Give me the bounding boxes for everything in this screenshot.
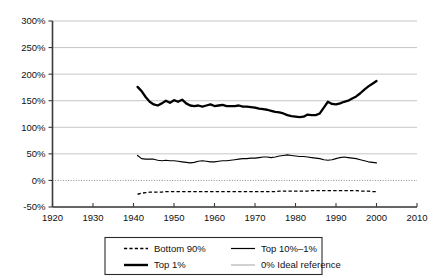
x-axis-tick-label: 1990 bbox=[325, 212, 346, 223]
y-axis-tick-label: 150% bbox=[21, 95, 46, 106]
y-axis-tick-label: 0% bbox=[32, 175, 46, 186]
series-line-bottom-90 bbox=[138, 191, 377, 195]
legend-label-0-ideal-reference: 0% Ideal reference bbox=[261, 259, 341, 270]
y-axis-tick-label: 100% bbox=[21, 122, 46, 133]
chart-container: -50%0%50%100%150%200%250%300% 1920193019… bbox=[0, 0, 429, 280]
x-axis-tick-label: 2000 bbox=[366, 212, 387, 223]
x-axis-tick-label: 2010 bbox=[406, 212, 427, 223]
y-axis-tick-label: 300% bbox=[21, 15, 46, 26]
x-axis-tick-label: 1950 bbox=[163, 212, 184, 223]
x-axis-tick-label: 1960 bbox=[204, 212, 225, 223]
x-axis-tick-label: 1930 bbox=[82, 212, 103, 223]
legend-label-top-10-1: Top 10%–1% bbox=[261, 243, 318, 254]
series-line-top-10-1 bbox=[138, 155, 377, 163]
x-axis-ticks: 1920193019401950196019701980199020002010 bbox=[42, 203, 428, 223]
y-axis-tick-label: -50% bbox=[23, 201, 46, 212]
legend-label-bottom-90: Bottom 90% bbox=[154, 243, 206, 254]
x-axis-tick-label: 1970 bbox=[244, 212, 265, 223]
x-axis-tick-label: 1920 bbox=[42, 212, 63, 223]
x-axis-tick-label: 1980 bbox=[285, 212, 306, 223]
y-axis-tick-label: 200% bbox=[21, 69, 46, 80]
x-axis-tick-label: 1940 bbox=[123, 212, 144, 223]
line-chart: -50%0%50%100%150%200%250%300% 1920193019… bbox=[0, 0, 429, 280]
series-line-top-1 bbox=[138, 81, 377, 117]
y-axis-tick-label: 50% bbox=[26, 148, 46, 159]
y-axis-ticks: -50%0%50%100%150%200%250%300% bbox=[21, 15, 52, 212]
y-axis-tick-label: 250% bbox=[21, 42, 46, 53]
data-series bbox=[138, 81, 377, 194]
chart-legend: Bottom 90%Top 10%–1%Top 1%0% Ideal refer… bbox=[105, 238, 341, 275]
gridlines bbox=[53, 21, 418, 207]
legend-label-top-1: Top 1% bbox=[154, 259, 186, 270]
